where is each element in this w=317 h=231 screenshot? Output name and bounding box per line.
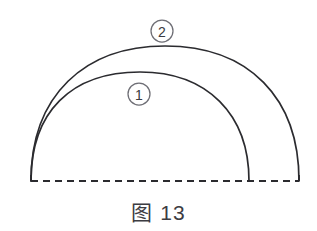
figure-caption: 图 13 [0,196,317,226]
arc-outer-path [31,46,299,181]
label-1-digit: 1 [135,87,143,103]
label-2-group: 2 [151,20,173,42]
label-2-digit: 2 [158,24,166,40]
caption-number-text: 13 [160,201,185,224]
caption-label-text: 图 [131,201,153,225]
label-1-group: 1 [128,83,150,105]
figure-container: 1 2 图 13 [0,0,317,231]
